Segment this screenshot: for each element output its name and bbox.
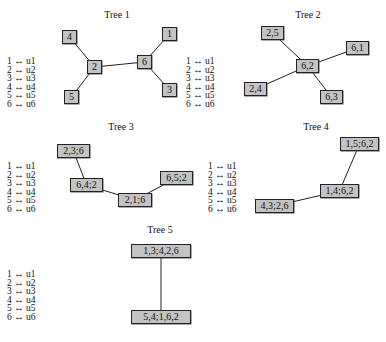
legend-line: 6 ↔ u6 [186,100,215,109]
tree-4-legend: 1 ↔ u1 2 ↔ u2 3 ↔ u3 4 ↔ u4 5 ↔ u5 6 ↔ u… [208,162,237,214]
tree-5-node: 1,3;4,2,6 [131,244,191,258]
tree-1-node: 4 [62,30,77,44]
tree-2-node: 2,5 [261,26,284,40]
tree-1-legend: 1 ↔ u1 2 ↔ u2 3 ↔ u3 4 ↔ u4 5 ↔ u5 6 ↔ u… [7,57,36,109]
legend-line: 6 ↔ u6 [7,100,36,109]
tree-3-title: Tree 3 [108,122,133,132]
tree-4-node: 4,3;2,6 [255,199,294,213]
tree-5-legend: 1 ↔ u1 2 ↔ u2 3 ↔ u3 4 ↔ u4 5 ↔ u5 6 ↔ u… [7,270,36,322]
tree-2-legend: 1 ↔ u1 2 ↔ u2 3 ↔ u3 4 ↔ u4 5 ↔ u5 6 ↔ u… [186,57,215,109]
tree-1-title: Tree 1 [104,10,129,20]
tree-1-node: 5 [64,90,79,104]
tree-3-node: 6,4;2 [70,178,103,192]
tree-5-title: Tree 5 [147,225,172,235]
tree-2-node: 6,1 [346,41,369,55]
tree-3-node: 2,1;6 [118,193,152,207]
tree-1-node: 3 [162,83,177,97]
tree-3-node: 2,3;6 [57,144,90,158]
tree-4-node: 1,5;6,2 [340,137,379,151]
legend-line: 6 ↔ u6 [208,205,237,214]
tree-2-node: 6,3 [320,90,343,104]
tree-5-node: 5,4;1,6,2 [131,310,191,324]
tree-1-node: 2 [87,60,102,74]
tree-1-node: 1 [162,27,177,41]
tree-4-title: Tree 4 [303,122,328,132]
legend-line: 6 ↔ u6 [7,205,36,214]
tree-1-node: 6 [137,55,152,69]
tree-2-title: Tree 2 [295,10,320,20]
tree-4-node: 1,4;6,2 [320,184,359,198]
legend-line: 6 ↔ u6 [7,313,36,322]
tree-3-legend: 1 ↔ u1 2 ↔ u2 3 ↔ u3 4 ↔ u4 5 ↔ u5 6 ↔ u… [7,162,36,214]
tree-2-node: 6,2 [296,59,319,73]
edges-layer [0,0,386,342]
tree-3-node: 6,5;2 [160,171,193,185]
tree-2-node: 2,4 [244,82,267,96]
